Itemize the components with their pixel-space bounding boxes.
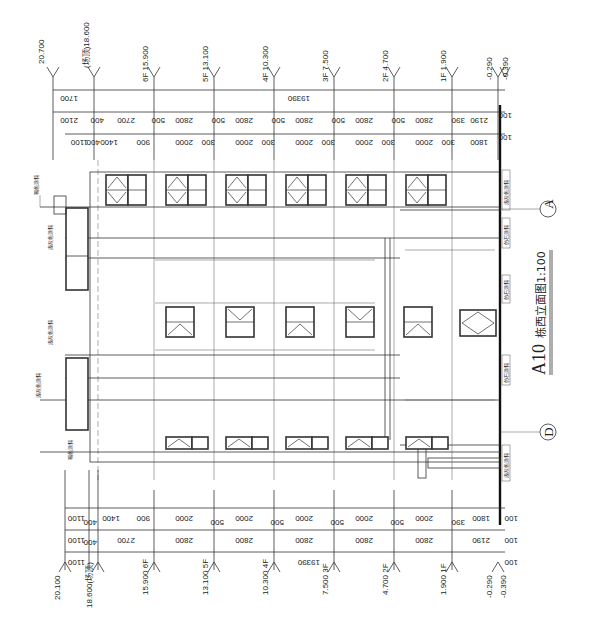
dimension-text: 2000 (175, 138, 193, 147)
level-label: 6F 15.900 (141, 45, 150, 82)
dimension-text: 300 (261, 138, 275, 147)
dimension-text: 1800 (472, 514, 490, 523)
dimension-text: 2700 (117, 536, 135, 545)
top-dimension-texts: 1700 19390 100 2100 400 2700 2800 500 28… (60, 94, 512, 147)
note-light-paint: 浅灰色涂料 (47, 320, 54, 345)
level-label: 1F 1.900 (439, 50, 448, 82)
dimension-text: 500 (391, 116, 405, 125)
dimension-text: 500 (271, 116, 285, 125)
level-label: 3F 7.500 (321, 50, 330, 82)
dimension-text: 400 (83, 538, 97, 547)
dimension-text: 500 (390, 518, 404, 527)
dimension-text: 400 (86, 138, 100, 147)
windows-top-row (106, 175, 446, 205)
level-label: 1.900 1F (439, 563, 448, 595)
dimension-text: 100 (504, 558, 518, 567)
dimension-text: 1100 (67, 514, 85, 523)
dimension-text: 300 (441, 138, 455, 147)
dimension-text: 2800 (415, 116, 433, 125)
dimension-text: 900 (136, 138, 150, 147)
dimension-text: 2000 (235, 514, 253, 523)
level-label: 20.700 (37, 39, 46, 64)
elevation-drawing: 20.700 (场顶)18.600 6F 15.900 5F 13.100 4F… (0, 0, 589, 638)
dimension-text: 19390 (297, 558, 320, 567)
level-label: 2F 4.700 (381, 50, 390, 82)
dimension-text: 2000 (415, 514, 433, 523)
note-light-paint: 浅灰色涂料 (503, 180, 510, 205)
dimension-text: 1100 (67, 536, 85, 545)
dimension-text: 1400 (100, 138, 118, 147)
dimension-text: 1400 (102, 514, 120, 523)
bottom-level-labels: 20.100 18.600(场顶) 15.900 6F 13.100 5F 10… (53, 559, 508, 608)
level-label: 4.700 2F (381, 563, 390, 595)
level-label: -0.390 (501, 57, 510, 80)
level-label: -0.290 (485, 575, 494, 598)
dimension-text: 2000 (235, 138, 253, 147)
dimension-text: 2000 (415, 138, 433, 147)
level-label: 10.300 4F (261, 559, 270, 595)
dimension-text: 1800 (470, 138, 488, 147)
dimension-text: 390 (451, 116, 465, 125)
dimension-text: 500 (211, 116, 225, 125)
dimension-text: 2800 (175, 536, 193, 545)
level-label: 13.100 5F (201, 559, 210, 595)
drawing-title: A10 栋西立面图1:100 (529, 250, 552, 375)
dimension-text: 2800 (235, 536, 253, 545)
windows-bottom-row (166, 437, 448, 449)
dimension-text: 2000 (175, 514, 193, 523)
level-label: 18.600(场顶) (85, 562, 94, 608)
level-label: (场顶)18.600 (82, 22, 91, 68)
dimension-text: 2100 (60, 116, 78, 125)
dimension-text: 2000 (355, 514, 373, 523)
dimension-text: 2000 (295, 138, 313, 147)
note-roof-paint: 褐色涂料 (33, 175, 40, 195)
dimension-text: 2800 (235, 116, 253, 125)
title-suffix: 栋西立面图1:100 (534, 251, 548, 338)
axis-d-label: D (541, 427, 556, 436)
dimension-text: 500 (210, 518, 224, 527)
note-stone-paint: 仿石涂料 (503, 363, 510, 383)
dimension-text: 2000 (295, 514, 313, 523)
level-label: 4F 10.300 (261, 45, 270, 82)
dimension-text: 900 (136, 514, 150, 523)
dimension-text: 390 (451, 518, 465, 527)
material-notes: 褐色涂料 浅灰色涂料 浅灰色涂料 浅灰色涂料 褐色涂料 浅灰色涂料 仿石涂料 仿… (33, 170, 510, 481)
dimension-text: 2800 (295, 116, 313, 125)
dimension-text: 1100 (67, 558, 85, 567)
note-stone-paint: 仿石涂料 (503, 225, 510, 245)
axis-a-label: A (541, 199, 556, 209)
level-label: 7.500 3F (321, 563, 330, 595)
dimension-text: 2800 (175, 116, 193, 125)
dimension-text: 2000 (355, 138, 373, 147)
dimension-text: 300 (321, 138, 335, 147)
windows-middle-row (166, 307, 496, 337)
bottom-dimension-texts: 1100 19390 100 1100 400 2700 2800 2800 2… (67, 514, 518, 567)
level-label: -0.390 (499, 575, 508, 598)
dimension-text: 300 (381, 138, 395, 147)
dimension-text: 2800 (355, 536, 373, 545)
dimension-text: 2190 (470, 116, 488, 125)
dimension-text: 2190 (472, 536, 490, 545)
dimension-text: 500 (151, 116, 165, 125)
dimension-text: 2700 (117, 116, 135, 125)
note-light-paint: 浅灰色涂料 (503, 453, 510, 478)
dimension-text: 500 (270, 518, 284, 527)
level-label: 5F 13.100 (201, 45, 210, 82)
note-stone-paint: 仿石涂料 (503, 280, 510, 300)
dimension-text: 500 (331, 116, 345, 125)
dimension-text: 300 (201, 138, 215, 147)
dimension-text: 2800 (355, 116, 373, 125)
note-light-paint: 浅灰色涂料 (47, 225, 54, 250)
dimension-text: 400 (90, 116, 104, 125)
dimension-text: 400 (83, 518, 97, 527)
level-label: 15.900 6F (141, 559, 150, 595)
dimension-text: 100 (504, 514, 518, 523)
top-level-labels: 20.700 (场顶)18.600 6F 15.900 5F 13.100 4F… (37, 22, 510, 82)
top-dimension-lines (53, 90, 505, 134)
level-label: 20.100 (53, 575, 62, 600)
dimension-text: 2800 (295, 536, 313, 545)
dimension-text: 500 (330, 518, 344, 527)
note-light-paint: 浅灰色涂料 (35, 373, 42, 398)
dimension-text: 19390 (287, 94, 310, 103)
dimension-text: 1700 (60, 94, 78, 103)
